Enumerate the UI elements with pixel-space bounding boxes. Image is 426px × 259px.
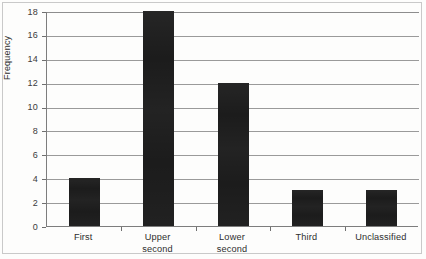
y-axis-tick-label: 14 xyxy=(12,55,38,64)
x-axis-category-label-line: Third xyxy=(263,232,349,244)
y-axis-tick-label: 0 xyxy=(12,223,38,232)
x-axis-category-label-line: Upper xyxy=(115,232,201,244)
y-axis-tick-label: 12 xyxy=(12,79,38,88)
bar xyxy=(292,190,323,226)
x-axis-category-label: Lowersecond xyxy=(189,232,275,255)
x-axis-tick-mark xyxy=(196,227,197,231)
x-axis-category-label-line: Lower xyxy=(189,232,275,244)
y-axis-tick-label: 2 xyxy=(12,199,38,208)
y-axis-tick-label: 10 xyxy=(12,103,38,112)
gridline xyxy=(47,12,419,13)
x-axis-category-label-line: second xyxy=(115,244,201,256)
y-axis-title: Frequency xyxy=(2,36,12,80)
y-axis-tick-label: 4 xyxy=(12,175,38,184)
y-axis-tick-label: 18 xyxy=(12,8,38,17)
y-axis-tick-label: 6 xyxy=(12,151,38,160)
x-axis-category-label: First xyxy=(40,232,126,244)
x-axis-category-label: Unclassified xyxy=(338,232,424,244)
y-axis-tick-label: 8 xyxy=(12,127,38,136)
x-axis-category-label-line: First xyxy=(40,232,126,244)
x-axis-category-label: Third xyxy=(263,232,349,244)
x-axis-category-label-line: second xyxy=(189,244,275,256)
gridline xyxy=(47,36,419,37)
y-axis-tick-mark xyxy=(42,227,46,228)
bar-chart-figure: Frequency 024681012141618 FirstUpperseco… xyxy=(0,0,426,259)
plot-area xyxy=(46,12,418,227)
bar xyxy=(366,190,397,226)
x-axis-tick-mark xyxy=(121,227,122,231)
bar xyxy=(143,11,174,226)
x-axis-category-label: Uppersecond xyxy=(115,232,201,255)
x-axis-tick-mark xyxy=(345,227,346,231)
bar xyxy=(218,83,249,226)
y-axis-tick-label: 16 xyxy=(12,31,38,40)
gridline xyxy=(47,60,419,61)
x-axis-category-label-line: Unclassified xyxy=(338,232,424,244)
bar xyxy=(69,178,100,226)
x-axis-tick-mark xyxy=(270,227,271,231)
